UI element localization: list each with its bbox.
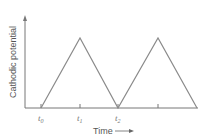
tick-label-t2: t2 <box>115 113 121 124</box>
x-axis <box>25 104 198 108</box>
triangular-potential-chart: t0 t1 t2 Time Cathodic potential <box>0 0 208 139</box>
x-axis-label: Time <box>93 126 113 136</box>
tick-label-t0: t0 <box>38 113 44 124</box>
x-label-arrow-icon <box>115 129 134 133</box>
potential-waveform <box>41 38 197 108</box>
y-axis-arrow-icon <box>23 15 27 21</box>
y-axis-label: Cathodic potential <box>8 26 18 98</box>
y-axis <box>23 15 27 108</box>
tick-label-t1: t1 <box>77 113 83 124</box>
